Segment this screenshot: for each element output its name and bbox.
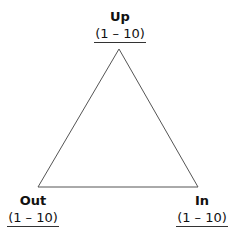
vertex-range-in: (1 – 10) <box>176 210 228 227</box>
vertex-label-in: In <box>182 193 222 208</box>
vertex-range-out: (1 – 10) <box>7 210 59 227</box>
vertex-range-up: (1 – 10) <box>94 26 146 43</box>
vertex-label-up: Up <box>100 9 140 24</box>
triangle-shape <box>38 49 198 187</box>
vertex-label-out: Out <box>8 193 58 208</box>
